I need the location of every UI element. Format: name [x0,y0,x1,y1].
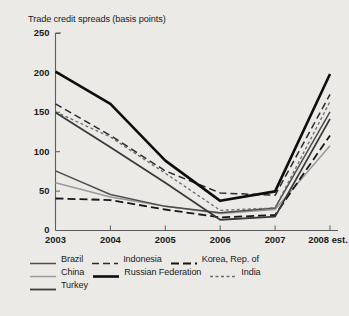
x-tick-label: 2004 [100,234,122,245]
y-axis [56,33,62,230]
x-tick-label: 2005 [155,234,176,245]
legend-label-indonesia: Indonesia [123,254,162,264]
legend-label-india: India [241,267,260,277]
legend-label-china: China [61,267,84,277]
chart-legend: BrazilIndonesiaKorea, Rep. ofChinaRussia… [30,252,346,291]
series-group [56,72,331,220]
y-tick-label: 200 [34,67,50,78]
y-tick-label: 100 [34,146,50,157]
legend-swatch-russian-federation [93,267,119,277]
chart-figure: Trade credit spreads (basis points) 0501… [0,0,349,316]
legend-row: ChinaRussian FederationIndia [30,265,346,278]
series-line-turkey [56,113,331,220]
legend-item-china[interactable]: China [30,267,84,277]
legend-swatch-korea-rep-of [171,254,197,264]
y-tick-label: 150 [34,106,50,117]
legend-row: Turkey [30,278,346,291]
x-tick-label: 2008 est. [308,234,348,245]
legend-label-korea-rep-of: Korea, Rep. of [202,254,259,264]
x-tick-label: 2007 [265,234,286,245]
legend-item-brazil[interactable]: Brazil [30,254,83,264]
y-tick-group: 050100150200250 [34,27,60,235]
legend-item-turkey[interactable]: Turkey [30,280,88,290]
legend-label-turkey: Turkey [61,280,88,290]
line-chart-plot: 050100150200250 200320042005200620072008… [0,0,349,250]
x-tick-label: 2003 [45,234,66,245]
legend-swatch-indonesia [92,254,118,264]
legend-item-russian-federation[interactable]: Russian Federation [93,267,201,277]
legend-swatch-turkey [30,280,56,290]
series-line-korea-rep-of [56,135,331,217]
legend-label-russian-federation: Russian Federation [124,267,201,277]
legend-item-india[interactable]: India [210,267,260,277]
legend-item-korea-rep-of[interactable]: Korea, Rep. of [171,254,259,264]
x-tick-label: 2006 [210,234,231,245]
y-tick-label: 250 [34,27,50,38]
legend-item-indonesia[interactable]: Indonesia [92,254,162,264]
x-tick-group: 200320042005200620072008 est. [45,226,348,246]
y-tick-label: 50 [39,185,49,196]
legend-label-brazil: Brazil [61,254,83,264]
legend-row: BrazilIndonesiaKorea, Rep. of [30,252,346,265]
legend-swatch-china [30,267,56,277]
legend-swatch-brazil [30,254,56,264]
legend-swatch-india [210,267,236,277]
